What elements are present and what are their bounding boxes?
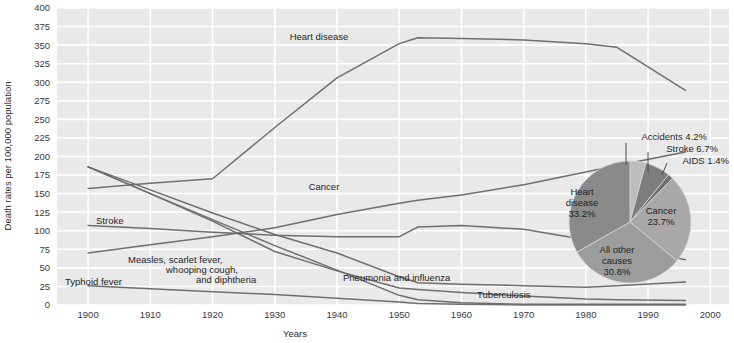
y-tick-150: 150: [34, 188, 50, 199]
y-tick-300: 300: [34, 77, 50, 88]
x-axis-tick-labels: 1900191019201930194019501960197019801990…: [78, 309, 721, 320]
x-tick-1980: 1980: [575, 309, 596, 320]
pie-label-all-other-causes-line3: 30.8%: [604, 266, 631, 277]
y-tick-0: 0: [45, 299, 50, 310]
x-axis-title: Years: [283, 328, 307, 339]
pie-label-heart-disease-line1: Heart: [570, 186, 594, 197]
x-tick-2000: 2000: [700, 309, 721, 320]
y-tick-100: 100: [34, 225, 50, 236]
y-tick-25: 25: [39, 281, 50, 292]
y-tick-225: 225: [34, 132, 50, 143]
pie-label-heart-disease-line2: disease: [566, 197, 599, 208]
series-label-measles-line3: and diphtheria: [196, 274, 257, 285]
y-tick-325: 325: [34, 58, 50, 69]
y-tick-350: 350: [34, 40, 50, 51]
y-tick-250: 250: [34, 114, 50, 125]
x-tick-1900: 1900: [78, 309, 99, 320]
y-tick-125: 125: [34, 207, 50, 218]
series-label-typhoid-fever: Typhoid fever: [65, 276, 122, 287]
pie-label-cancer-line1: Cancer: [646, 205, 677, 216]
y-tick-200: 200: [34, 151, 50, 162]
chart-figure: 4003753503253002752502252001751501251007…: [0, 0, 734, 343]
pie-callout-aids: AIDS 1.4%: [683, 155, 730, 166]
y-axis-tick-labels: 4003753503253002752502252001751501251007…: [34, 2, 50, 310]
series-label-tuberculosis: Tuberculosis: [477, 289, 531, 300]
series-label-stroke: Stroke: [96, 215, 123, 226]
x-tick-1990: 1990: [638, 309, 659, 320]
y-tick-375: 375: [34, 21, 50, 32]
pie-callout-accidents: Accidents 4.2%: [642, 131, 708, 142]
pie-label-all-other-causes-line2: causes: [602, 255, 632, 266]
y-tick-175: 175: [34, 169, 50, 180]
series-label-heart-disease: Heart disease: [290, 31, 349, 42]
x-tick-1930: 1930: [264, 309, 285, 320]
x-tick-1940: 1940: [326, 309, 347, 320]
pie-label-all-other-causes-line1: All other: [600, 244, 635, 255]
series-label-cancer: Cancer: [309, 181, 340, 192]
x-tick-1970: 1970: [513, 309, 534, 320]
pie-callout-stroke: Stroke 6.7%: [666, 143, 718, 154]
y-tick-400: 400: [34, 2, 50, 13]
pie-label-cancer-line2: 23.7%: [648, 216, 675, 227]
y-tick-75: 75: [39, 244, 50, 255]
y-tick-50: 50: [39, 262, 50, 273]
x-tick-1950: 1950: [389, 309, 410, 320]
x-tick-1920: 1920: [202, 309, 223, 320]
y-axis-title: Death rates per 100,000 population: [2, 82, 13, 231]
y-tick-275: 275: [34, 95, 50, 106]
pie-label-heart-disease-line3: 33.2%: [569, 208, 596, 219]
x-tick-1960: 1960: [451, 309, 472, 320]
chart-svg: 4003753503253002752502252001751501251007…: [0, 0, 734, 343]
series-label-pneumonia-influenza: Pneumonia and influenza: [343, 272, 451, 283]
x-tick-1910: 1910: [140, 309, 161, 320]
